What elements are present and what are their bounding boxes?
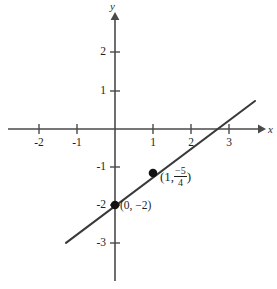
point-label-origin-intercept: (0, −2) [120,199,151,211]
y-axis-label: y [110,0,115,12]
y-tick-label-2: 2 [92,45,106,57]
x-tick-label-3: 3 [221,136,237,148]
x-tick-label-2: 2 [183,136,199,148]
fraction-numerator: −5 [174,166,187,176]
x-tick-label-neg2: -2 [29,136,49,148]
y-tick-label-1: 1 [92,84,106,96]
x-tick-label-1: 1 [145,136,161,148]
data-point-1-neg5over4 [149,169,158,178]
data-point-0-neg2 [111,201,120,210]
x-axis-label: x [268,123,273,135]
y-axis-arrowhead [111,12,120,20]
point-label-fraction: (1, −5 4 ) [160,166,191,188]
x-tick-label-neg1: -1 [67,136,87,148]
y-tick-label-neg2: -2 [86,198,106,210]
point-label-prefix: (1, [160,169,174,185]
coordinate-plane-figure: x y -2 -1 1 2 3 2 1 -1 -2 -3 (0, −2) (1,… [0,0,277,289]
fraction-neg5-over-4: −5 4 [174,166,187,188]
fraction-denominator: 4 [174,178,187,188]
y-tick-label-neg1: -1 [86,160,106,172]
y-tick-label-neg3: -3 [86,236,106,248]
point-label-suffix: ) [187,169,191,185]
x-axis-arrowhead [258,125,266,134]
